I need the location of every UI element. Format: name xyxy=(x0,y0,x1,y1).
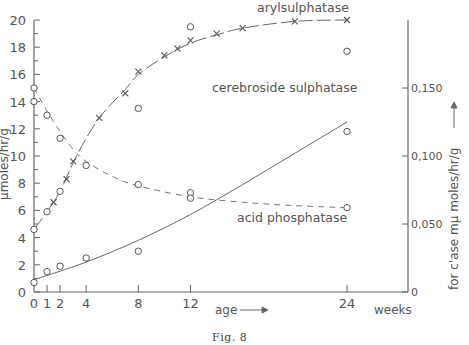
arylsulphatase-x-marker xyxy=(51,199,57,205)
series-label-acid-phosphatase: acid phosphatase xyxy=(237,210,348,225)
chart: 02468101214161820 012481224 00,0500,1000… xyxy=(0,0,469,345)
arylsulphatase-circle-marker xyxy=(57,188,63,194)
x-axis-unit: weeks xyxy=(374,303,412,317)
series-label-cerebroside: cerebroside sulphatase xyxy=(212,80,358,95)
acid-phosphatase-marker xyxy=(31,98,37,104)
left-y-tick-label: 10 xyxy=(9,149,26,164)
left-y-axis-label: μmoles/hr/g xyxy=(0,128,11,200)
arylsulphatase-x-marker xyxy=(96,115,102,121)
arylsulphatase-circle-marker xyxy=(344,48,350,54)
cerebroside-sulphatase-marker xyxy=(135,248,141,254)
right-axis-arrow-icon xyxy=(451,102,457,128)
left-y-tick-label: 12 xyxy=(9,122,26,137)
left-y-tick-label: 18 xyxy=(9,40,26,55)
arylsulphatase-circle-marker xyxy=(44,209,50,215)
left-y-tick-label: 2 xyxy=(18,258,26,273)
arylsulphatase-circle-marker xyxy=(135,105,141,111)
arylsulphatase-x-marker xyxy=(214,31,220,37)
acid-phosphatase-marker xyxy=(187,195,193,201)
x-axis-arrow-icon xyxy=(240,307,268,313)
x-tick-label: 4 xyxy=(82,296,90,311)
x-tick-label: 24 xyxy=(339,296,356,311)
left-y-tick-label: 8 xyxy=(18,176,26,191)
arylsulphatase-x-marker xyxy=(188,37,194,43)
acid-phosphatase-marker xyxy=(57,135,63,141)
left-y-tick-label: 16 xyxy=(9,67,26,82)
right-y-tick-label: 0,150 xyxy=(411,82,443,95)
x-tick-label: 12 xyxy=(182,296,199,311)
right-y-tick-label: 0 xyxy=(411,286,418,299)
x-tick-label: 1 xyxy=(43,296,51,311)
series-layer xyxy=(31,17,350,286)
x-axis-label: age xyxy=(215,303,237,317)
left-y-tick-label: 4 xyxy=(18,231,26,246)
arylsulphatase-circle-marker xyxy=(31,226,37,232)
cerebroside-sulphatase-marker xyxy=(83,255,89,261)
acid-phosphatase-marker xyxy=(135,181,141,187)
arylsulphatase-circle-marker xyxy=(187,24,193,30)
cerebroside-sulphatase-marker xyxy=(57,263,63,269)
left-y-ticks: 02468101214161820 xyxy=(9,13,40,300)
right-y-axis-label: for c'ase mμ moles/hr/g xyxy=(447,148,461,290)
series-label-arylsulphatase: arylsulphatase xyxy=(257,0,349,15)
x-tick-label: 8 xyxy=(134,296,142,311)
x-ticks: 012481224 xyxy=(30,285,355,311)
acid-phosphatase-marker xyxy=(31,85,37,91)
cerebroside-sulphatase-marker xyxy=(44,268,50,274)
figure-caption: Fig. 8 xyxy=(212,331,247,344)
right-y-tick-label: 0,100 xyxy=(411,150,443,163)
acid-phosphatase-marker xyxy=(83,162,89,168)
acid-phosphatase-marker xyxy=(44,112,50,118)
cerebroside-sulphatase-marker xyxy=(344,128,350,134)
arylsulphatase-x-marker xyxy=(122,90,128,96)
cerebroside-sulphatase-marker xyxy=(31,279,37,285)
right-y-tick-label: 0,050 xyxy=(411,218,443,231)
x-tick-label: 0 xyxy=(30,296,38,311)
left-y-tick-label: 6 xyxy=(18,203,26,218)
left-y-tick-label: 20 xyxy=(9,13,26,28)
axes xyxy=(34,20,408,292)
left-y-tick-label: 0 xyxy=(18,285,26,300)
x-tick-label: 2 xyxy=(56,296,64,311)
left-y-tick-label: 14 xyxy=(9,95,26,110)
